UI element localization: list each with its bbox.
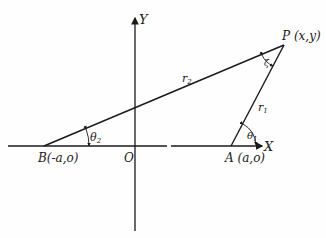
point-b-label: B(-a,o) [37, 151, 79, 165]
origin-label: O [124, 151, 134, 165]
point-p-label: P (x,y) [281, 29, 321, 43]
angle-theta2-label: θ2 [90, 131, 102, 145]
y-axis-label: Y [139, 12, 149, 27]
segment-r2-label: r2 [182, 72, 192, 86]
segment-r1 [231, 45, 284, 146]
angle-arc-theta2 [86, 129, 89, 146]
angle-zeta-label: ζ [264, 58, 270, 68]
point-a-label: A (a,o) [224, 151, 265, 165]
diagram-canvas: Y X O P (x,y) A (a,o) B(-a,o) r2 r1 θ2 θ… [0, 0, 326, 238]
segment-r1-label: r1 [258, 101, 268, 115]
angle-theta1-label: θ1 [247, 130, 258, 143]
